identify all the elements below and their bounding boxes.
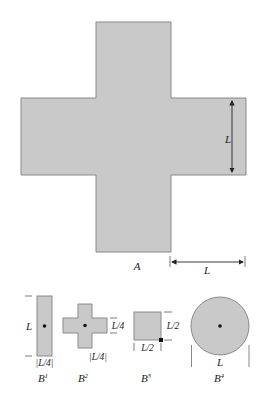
b1-name-label: B1 [38,372,48,384]
b3-origin-dot [159,338,163,342]
b3-height-label: L/2 [166,321,180,331]
structuring-element-b2: L/4 |L/4| B2 [63,304,125,384]
shape-a: L L A [21,22,246,276]
b4-diameter-label: L [216,356,223,368]
b2-arm-label: L/4 [111,321,125,331]
b3-width-label: L/2 [140,343,154,353]
morphology-diagram: L L A L |L/4| B1 L/4 |L/4| B2 L/2 L/2 [0,0,268,402]
b1-width-label: |L/4| [36,358,54,368]
shape-a-label: A [133,260,141,272]
b2-width-label: |L/4| [89,352,107,362]
b2-origin-dot [83,324,87,328]
arm-width-label: L [224,133,231,145]
structuring-element-b4: L B4 [191,297,249,384]
arm-length-label: L [203,264,210,276]
b3-name-label: B3 [141,372,152,384]
b4-origin-dot [218,324,222,328]
b1-height-label: L [25,320,32,332]
b4-name-label: B4 [214,372,225,384]
b1-origin-dot [43,324,47,328]
b2-name-label: B2 [78,372,89,384]
b3-square [134,312,161,340]
cross-shape-a [21,22,246,252]
structuring-element-b3: L/2 L/2 B3 [134,312,180,384]
structuring-element-b1: L |L/4| B1 [25,296,54,384]
